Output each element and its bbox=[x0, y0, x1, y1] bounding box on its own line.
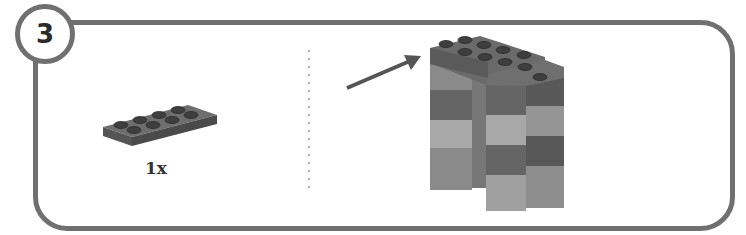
assembled-model bbox=[430, 36, 564, 211]
placement-arrow bbox=[347, 55, 421, 88]
part-plate-2x4 bbox=[103, 105, 217, 146]
right-column bbox=[486, 76, 564, 211]
instruction-illustration bbox=[0, 0, 746, 235]
part-quantity-label: 1x bbox=[145, 158, 167, 178]
